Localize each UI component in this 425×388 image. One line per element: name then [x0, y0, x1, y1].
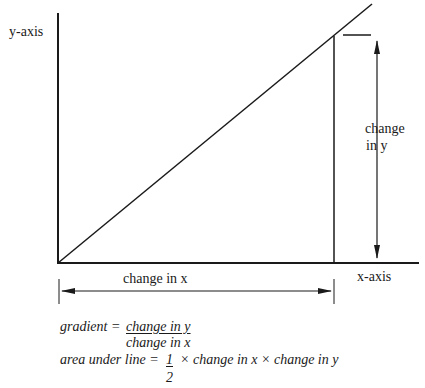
straight-line — [58, 4, 372, 263]
y-axis-label: y-axis — [9, 25, 43, 39]
change-in-x-label: change in x — [123, 272, 188, 286]
gradient-formula: gradient = — [60, 320, 120, 334]
gradient-numerator: change in y — [126, 320, 191, 334]
gradient-lhs: gradient = — [60, 319, 120, 334]
area-fraction-denominator: 2 — [166, 371, 173, 385]
area-fraction-numerator: 1 — [166, 353, 173, 367]
area-rhs: × change in x × change in y — [180, 353, 338, 367]
area-lhs: area under line = — [60, 353, 159, 367]
change-in-y-label-line1: change — [365, 122, 405, 136]
change-in-y-label-line2: in y — [366, 139, 387, 153]
x-axis-label: x-axis — [357, 270, 391, 284]
gradient-denominator: change in x — [126, 336, 191, 350]
